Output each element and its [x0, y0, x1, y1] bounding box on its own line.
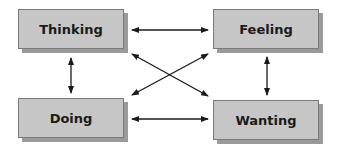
node-label: Doing	[50, 111, 93, 126]
node-thinking: Thinking	[18, 9, 124, 49]
node-label: Feeling	[239, 22, 292, 37]
node-label: Thinking	[39, 22, 103, 37]
node-label: Wanting	[235, 113, 296, 128]
node-feeling: Feeling	[213, 9, 319, 49]
node-wanting: Wanting	[213, 100, 319, 140]
node-doing: Doing	[18, 98, 124, 138]
